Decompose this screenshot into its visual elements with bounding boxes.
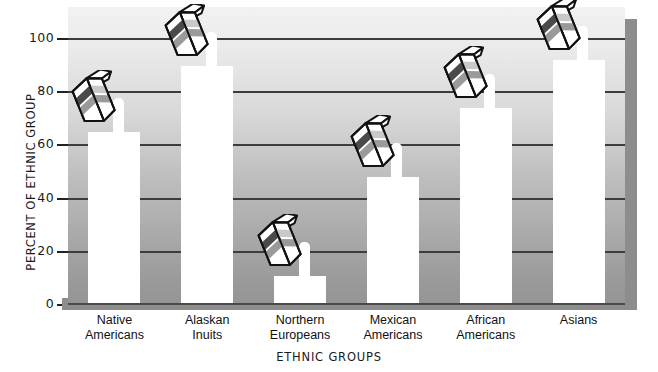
y-tick-label-100: 100 (14, 30, 54, 45)
y-tick-label-40: 40 (14, 190, 54, 205)
x-tick-label-line: Asians (519, 313, 639, 328)
milk-carton-annotation (345, 115, 407, 177)
y-tick-label-20: 20 (14, 243, 54, 258)
bar (367, 177, 419, 305)
milk-carton-annotation (531, 0, 593, 60)
bar (460, 108, 512, 305)
milk-carton-icon (66, 70, 128, 132)
bar (88, 132, 140, 305)
milk-carton-annotation (252, 214, 314, 276)
bar (274, 276, 326, 305)
milk-carton-annotation (438, 46, 500, 108)
milk-carton-icon (345, 115, 407, 177)
bar (553, 60, 605, 305)
milk-carton-annotation (159, 4, 221, 66)
x-tick-label: Asians (519, 313, 639, 328)
y-tick-label-60: 60 (14, 136, 54, 151)
y-tick-label-0: 0 (14, 296, 54, 311)
x-tick-label-line: Americans (426, 328, 546, 343)
gridline (68, 91, 625, 93)
y-tick-mark (57, 198, 68, 200)
x-axis-title: ETHNIC GROUPS (0, 350, 658, 364)
y-tick-mark (57, 251, 68, 253)
y-tick-mark (57, 38, 68, 40)
milk-carton-icon (252, 214, 314, 276)
y-tick-mark (57, 144, 68, 146)
gridline (68, 251, 625, 253)
plot-shadow (625, 19, 637, 310)
milk-carton-icon (438, 46, 500, 108)
chart-figure: PERCENT OF ETHNIC GROUP 0 20 40 60 80 10… (0, 0, 658, 372)
milk-carton-icon (159, 4, 221, 66)
gridline (68, 198, 625, 200)
x-axis-line (68, 303, 625, 305)
y-tick-label-80: 80 (14, 83, 54, 98)
milk-carton-icon (531, 0, 593, 60)
milk-carton-annotation (66, 70, 128, 132)
bar (181, 66, 233, 305)
